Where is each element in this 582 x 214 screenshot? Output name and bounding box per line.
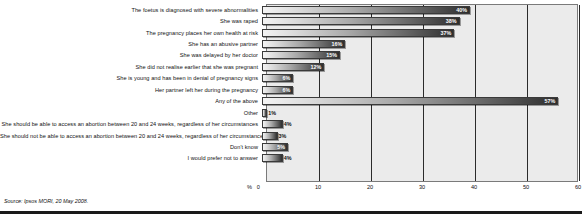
bar-value-label: 38% — [446, 18, 459, 24]
bar-value-label: 57% — [545, 98, 558, 104]
bar-track: 16% — [262, 38, 582, 49]
axis-unit-label: % 0 — [247, 184, 260, 191]
bar: 37% — [262, 29, 454, 37]
bar-value-label: 16% — [331, 41, 344, 47]
bar-row: I would prefer not to answer4% — [0, 153, 582, 164]
axis-zero-label: 0 — [257, 184, 260, 190]
bar-value-label: 40% — [456, 7, 469, 13]
bar-track: 3% — [262, 130, 582, 141]
bar-rows: The foetus is diagnosed with severe abno… — [0, 4, 582, 182]
x-tick-label: 40 — [471, 184, 477, 191]
bar-row: The pregnancy places her own health at r… — [0, 27, 582, 38]
bar-track: 6% — [262, 73, 582, 84]
category-label: She was raped — [0, 18, 262, 24]
bar-value-label: 6% — [282, 87, 292, 93]
bar-track: 5% — [262, 141, 582, 152]
bar: 38% — [262, 17, 460, 25]
bar-row: Her partner left her during the pregnanc… — [0, 84, 582, 95]
bar-value-label: 4% — [284, 155, 292, 161]
bar-row: She did not realise earlier that she was… — [0, 61, 582, 72]
category-label: She was delayed by her doctor — [0, 52, 262, 58]
bar-track: 57% — [262, 96, 582, 107]
bar-track: 40% — [262, 4, 582, 15]
bar-value-label: 12% — [311, 64, 324, 70]
bar-row: Any of the above57% — [0, 96, 582, 107]
bar-track: 37% — [262, 27, 582, 38]
bar-value-label: 6% — [282, 75, 292, 81]
bar-row: She has an abusive partner16% — [0, 38, 582, 49]
bar-track: 4% — [262, 153, 582, 164]
bar: 1% — [262, 109, 267, 117]
category-label: Her partner left her during the pregnanc… — [0, 87, 262, 93]
bar-row: She was delayed by her doctor15% — [0, 50, 582, 61]
bar: 15% — [262, 51, 340, 59]
bar: 16% — [262, 40, 345, 48]
category-label: Don't know — [0, 144, 262, 150]
bar-value-label: 3% — [279, 133, 287, 139]
x-tick-label: 20 — [367, 184, 373, 191]
x-tick-label: 30 — [419, 184, 425, 191]
bar: 12% — [262, 63, 324, 71]
x-axis: 102030405060 — [266, 183, 578, 197]
category-label: The pregnancy places her own health at r… — [0, 30, 262, 36]
bar-value-label: 1% — [268, 110, 276, 116]
bar: 4% — [262, 154, 283, 162]
bar: 57% — [262, 97, 558, 105]
category-label: I would prefer not to answer — [0, 155, 262, 161]
bar-row: The foetus is diagnosed with severe abno… — [0, 4, 582, 15]
bar: 6% — [262, 86, 293, 94]
category-label: She should be able to access an abortion… — [0, 121, 262, 127]
bar: 6% — [262, 74, 293, 82]
bar: 3% — [262, 132, 278, 140]
bar-row: She should be able to access an abortion… — [0, 118, 582, 129]
bar: 4% — [262, 120, 283, 128]
bar-value-label: 37% — [441, 30, 454, 36]
bar: 40% — [262, 6, 470, 14]
bar-row: She is young and has been in denial of p… — [0, 73, 582, 84]
bar-row: She should not be able to access an abor… — [0, 130, 582, 141]
bar-track: 38% — [262, 15, 582, 26]
category-label: She did not realise earlier that she was… — [0, 64, 262, 70]
bar-row: She was raped38% — [0, 15, 582, 26]
category-label: Other — [0, 110, 262, 116]
bar-row: Don't know5% — [0, 141, 582, 152]
category-label: She should not be able to access an abor… — [0, 133, 262, 139]
source-note: Source: Ipsos MORI, 20 May 2008. — [4, 198, 88, 205]
bar-track: 4% — [262, 118, 582, 129]
category-label: She has an abusive partner — [0, 41, 262, 47]
bar-track: 1% — [262, 107, 582, 118]
bar-value-label: 5% — [277, 144, 287, 150]
bar-track: 6% — [262, 84, 582, 95]
x-tick-label: 10 — [315, 184, 321, 191]
category-label: She is young and has been in denial of p… — [0, 75, 262, 81]
category-label: The foetus is diagnosed with severe abno… — [0, 7, 262, 13]
bar-track: 12% — [262, 61, 582, 72]
bar-chart: The foetus is diagnosed with severe abno… — [0, 0, 582, 214]
bar-value-label: 15% — [326, 52, 339, 58]
x-tick-label: 50 — [523, 184, 529, 191]
bar-track: 15% — [262, 50, 582, 61]
bar-value-label: 4% — [284, 121, 292, 127]
category-label: Any of the above — [0, 98, 262, 104]
x-tick-label: 60 — [575, 184, 581, 191]
bar: 5% — [262, 143, 288, 151]
axis-unit-text: % — [247, 184, 252, 190]
bar-row: Other1% — [0, 107, 582, 118]
